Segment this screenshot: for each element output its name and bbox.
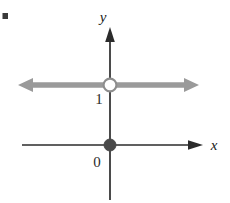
coordinate-plane-graphic: y x 1 0 xyxy=(0,0,230,203)
x-axis-arrowhead xyxy=(188,140,203,150)
y-axis xyxy=(105,27,115,200)
gray-arrowhead-right xyxy=(184,78,199,92)
math-figure: y x 1 0 xyxy=(0,0,230,203)
x-axis-label: x xyxy=(210,137,218,153)
gray-arrowhead-left xyxy=(18,78,33,92)
bullet-square-mark xyxy=(3,13,9,19)
y-axis-label: y xyxy=(98,9,107,25)
filled-circle-marker-0-0 xyxy=(104,139,116,151)
open-circle-marker-0-1 xyxy=(104,79,117,92)
tick-label-1: 1 xyxy=(95,91,103,107)
y-axis-arrowhead xyxy=(105,27,115,42)
tick-label-0: 0 xyxy=(93,154,101,170)
